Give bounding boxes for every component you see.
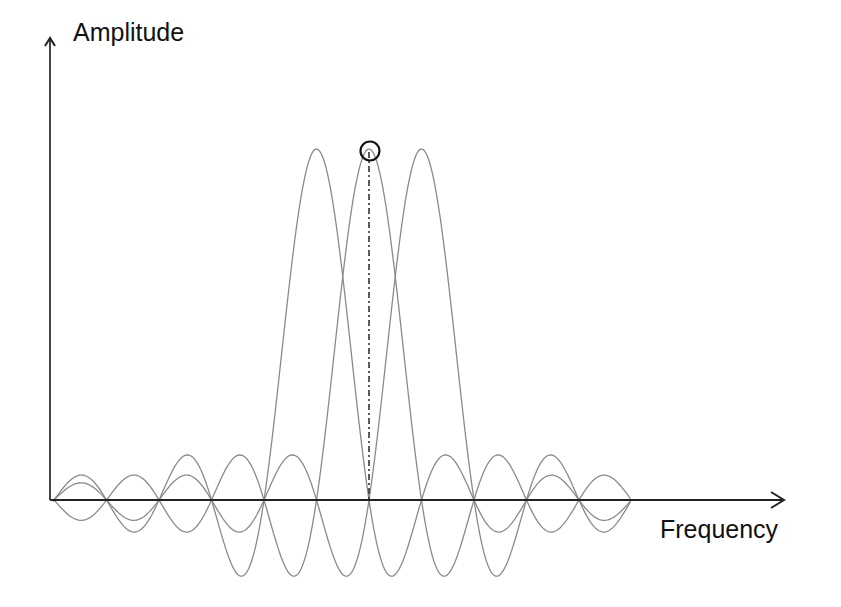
sinc-curve-subcarrier-3 <box>53 149 631 576</box>
diagram-canvas: Amplitude Frequency <box>0 0 841 607</box>
sinc-curves <box>53 149 631 576</box>
y-axis-label: Amplitude <box>73 18 184 47</box>
sinc-curve-subcarrier-2 <box>53 149 631 576</box>
peak-marker-circle <box>361 142 380 161</box>
x-axis-label: Frequency <box>660 515 778 544</box>
sinc-curve-subcarrier-1 <box>53 149 631 576</box>
